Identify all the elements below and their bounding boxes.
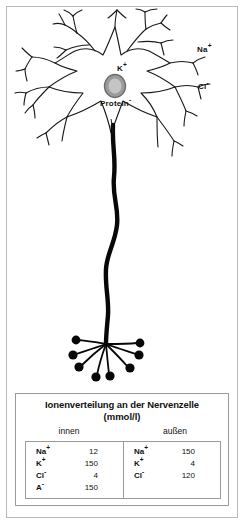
label-intracellular-protein-charge: - bbox=[129, 96, 131, 103]
figure-root: Na+ Cl- K+ Protein- Ionenverteilung an d… bbox=[0, 0, 245, 525]
ion-label: K+ bbox=[134, 459, 144, 468]
table-row: Cl- 120 bbox=[124, 471, 220, 483]
label-intracellular-potassium: K+ bbox=[117, 64, 127, 73]
ion-concentration: 12 bbox=[50, 447, 114, 456]
ion-concentration: 150 bbox=[44, 483, 114, 492]
ion-concentration: 150 bbox=[46, 459, 114, 468]
ion-label: Cl- bbox=[36, 471, 46, 480]
ion-symbol: Cl bbox=[36, 471, 44, 480]
ion-symbol: Na bbox=[134, 447, 144, 456]
table-column-headers: innen außen bbox=[16, 426, 228, 436]
ion-label: Na+ bbox=[134, 447, 148, 456]
table-title: Ionenverteilung an der Nervenzelle bbox=[16, 394, 228, 411]
ion-distribution-table: Ionenverteilung an der Nervenzelle (mmol… bbox=[15, 393, 229, 506]
ion-label: K+ bbox=[36, 459, 46, 468]
table-units: (mmol/l) bbox=[16, 411, 228, 423]
ion-symbol: Cl bbox=[134, 471, 142, 480]
label-extracellular-chloride-charge: - bbox=[206, 79, 208, 86]
nucleus bbox=[105, 75, 126, 98]
table-row: Cl- 4 bbox=[26, 471, 123, 483]
label-extracellular-chloride: Cl- bbox=[198, 82, 209, 91]
ion-symbol: Na bbox=[36, 447, 46, 456]
label-intracellular-potassium-charge: + bbox=[123, 61, 127, 68]
ion-concentration: 4 bbox=[46, 471, 114, 480]
data-column-inside: Na+ 12 K+ 150 Cl- 4 A- 150 bbox=[26, 442, 123, 498]
ion-concentration: 120 bbox=[144, 471, 211, 480]
column-header-outside: außen bbox=[122, 426, 228, 436]
table-row: A- 150 bbox=[26, 483, 123, 495]
ion-label: Cl- bbox=[134, 471, 144, 480]
label-intracellular-protein: Protein- bbox=[100, 99, 131, 108]
data-column-outside: Na+ 150 K+ 4 Cl- 120 bbox=[123, 442, 220, 498]
table-row: Na+ 12 bbox=[26, 447, 123, 459]
table-data-box: Na+ 12 K+ 150 Cl- 4 A- 150 Na+ bbox=[25, 441, 221, 499]
table-row: K+ 150 bbox=[26, 459, 123, 471]
table-row: Na+ 150 bbox=[124, 447, 220, 459]
label-intracellular-protein-text: Protein bbox=[100, 99, 129, 108]
ion-concentration: 4 bbox=[144, 459, 211, 468]
ion-label: A- bbox=[36, 483, 44, 492]
label-extracellular-sodium: Na+ bbox=[197, 45, 212, 54]
ion-concentration: 150 bbox=[148, 447, 211, 456]
neuron-diagram: Na+ Cl- K+ Protein- bbox=[7, 7, 237, 382]
ion-label: Na+ bbox=[36, 447, 50, 456]
table-row: K+ 4 bbox=[124, 459, 220, 471]
axon bbox=[106, 125, 118, 344]
column-header-inside: innen bbox=[16, 426, 122, 436]
label-extracellular-sodium-charge: + bbox=[208, 42, 212, 49]
label-extracellular-sodium-text: Na bbox=[197, 45, 208, 54]
